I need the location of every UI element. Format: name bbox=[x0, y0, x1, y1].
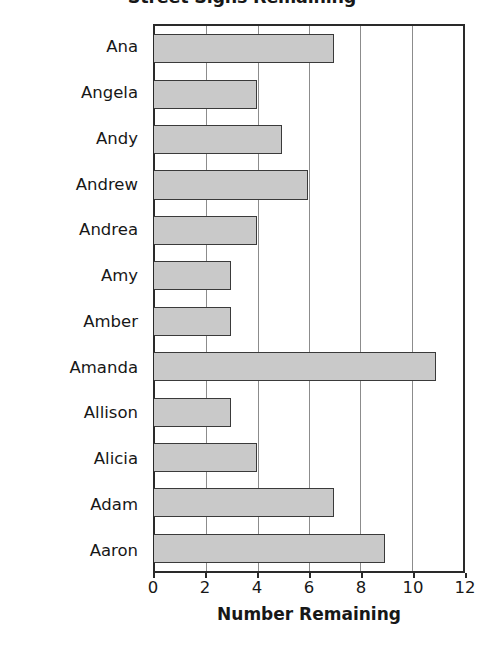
y-axis-tick-label: Ana bbox=[34, 24, 146, 70]
bar-slot bbox=[155, 344, 463, 389]
bar-slot bbox=[155, 480, 463, 525]
bar-slot bbox=[155, 253, 463, 298]
bar-slot bbox=[155, 26, 463, 71]
y-axis-tick-label: Andrea bbox=[34, 207, 146, 253]
bar[interactable] bbox=[154, 443, 257, 472]
bars-layer bbox=[155, 26, 463, 571]
bar-slot bbox=[155, 71, 463, 116]
y-axis-tick-label: Angela bbox=[34, 70, 146, 116]
y-axis-tick-label: Aaron bbox=[34, 527, 146, 573]
x-axis-tick-label: 0 bbox=[148, 578, 159, 597]
x-axis-tick-label: 4 bbox=[252, 578, 263, 597]
bar[interactable] bbox=[154, 398, 231, 427]
bar[interactable] bbox=[154, 170, 308, 199]
chart-title: Street Signs Remaining bbox=[0, 0, 484, 9]
y-axis-tick-label: Andrew bbox=[34, 161, 146, 207]
bar[interactable] bbox=[154, 488, 334, 517]
bar-slot bbox=[155, 117, 463, 162]
bar-slot bbox=[155, 162, 463, 207]
y-axis-tick-label: Amy bbox=[34, 253, 146, 299]
y-axis-tick-label: Alicia bbox=[34, 436, 146, 482]
bar-slot bbox=[155, 526, 463, 571]
x-axis-title: Number Remaining bbox=[153, 604, 465, 624]
y-axis-tick-label: Andy bbox=[34, 116, 146, 162]
bar-slot bbox=[155, 208, 463, 253]
y-axis-tick-label: Amber bbox=[34, 299, 146, 345]
bar-slot bbox=[155, 299, 463, 344]
x-axis-tick-label: 10 bbox=[403, 578, 424, 597]
bar[interactable] bbox=[154, 80, 257, 109]
bar[interactable] bbox=[154, 216, 257, 245]
x-axis-tick-label: 12 bbox=[455, 578, 476, 597]
x-axis-tick-label: 2 bbox=[200, 578, 211, 597]
x-axis-tick-labels: 024681012 bbox=[153, 578, 465, 602]
bar[interactable] bbox=[154, 352, 436, 381]
y-axis-tick-label: Allison bbox=[34, 390, 146, 436]
bar[interactable] bbox=[154, 307, 231, 336]
bar[interactable] bbox=[154, 125, 282, 154]
y-axis-tick-labels: AnaAngelaAndyAndrewAndreaAmyAmberAmandaA… bbox=[34, 24, 146, 573]
x-axis-tick-label: 8 bbox=[356, 578, 367, 597]
bar[interactable] bbox=[154, 261, 231, 290]
y-axis-tick-label: Amanda bbox=[34, 344, 146, 390]
bar-slot bbox=[155, 389, 463, 434]
y-axis-tick-label: Adam bbox=[34, 482, 146, 528]
x-axis-tick-label: 6 bbox=[304, 578, 315, 597]
bar[interactable] bbox=[154, 534, 385, 563]
plot-area bbox=[153, 24, 465, 573]
bar[interactable] bbox=[154, 34, 334, 63]
bar-slot bbox=[155, 435, 463, 480]
